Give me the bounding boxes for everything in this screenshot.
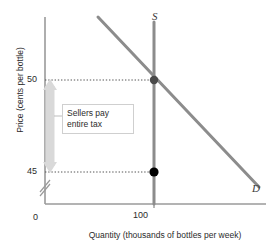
y-tick-label-45: 45 <box>27 166 37 176</box>
x-axis-title: Quantity (thousands of bottles per week) <box>60 230 270 240</box>
point-equilibrium <box>150 76 158 84</box>
supply-demand-chart: 50 45 0 100 Price (cents per bottle) Qua… <box>0 0 275 249</box>
y-axis-title: Price (cents per bottle) <box>15 30 25 150</box>
supply-curve-label: S <box>152 10 158 22</box>
annotation-sellers-pay-entire-tax: Sellers pay entire tax <box>62 104 134 134</box>
point-seller-price <box>149 167 158 176</box>
annotation-line-1: Sellers pay <box>67 108 129 119</box>
annotation-line-2: entire tax <box>67 119 129 130</box>
demand-curve-label: D <box>252 182 260 194</box>
demand-curve <box>98 17 259 187</box>
y-tick-label-50: 50 <box>27 74 37 84</box>
x-tick-label-100: 100 <box>133 210 148 220</box>
origin-label: 0 <box>33 212 38 222</box>
